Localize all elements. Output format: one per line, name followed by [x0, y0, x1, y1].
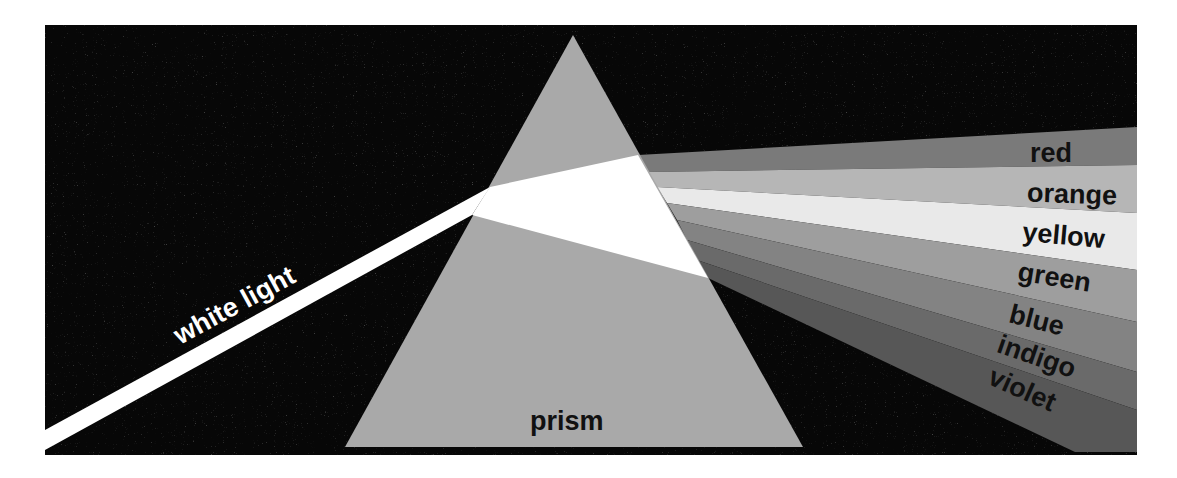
- prism-label: prism: [530, 406, 604, 436]
- spectrum-label-orange: orange: [1027, 178, 1118, 211]
- spectrum-label-red: red: [1030, 138, 1072, 168]
- prism-dispersion-diagram: white light prism red orange yellow gree…: [0, 0, 1177, 478]
